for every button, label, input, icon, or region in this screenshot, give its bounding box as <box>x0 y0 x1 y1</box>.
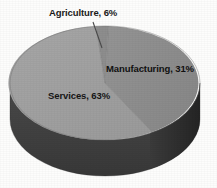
slice-label-agriculture: Agriculture, 6% <box>49 7 117 18</box>
pie-chart-figure: Agriculture, 6% Manufacturing, 31% Servi… <box>0 0 217 188</box>
slice-label-services: Services, 63% <box>48 90 110 101</box>
slice-label-manufacturing: Manufacturing, 31% <box>106 63 194 74</box>
